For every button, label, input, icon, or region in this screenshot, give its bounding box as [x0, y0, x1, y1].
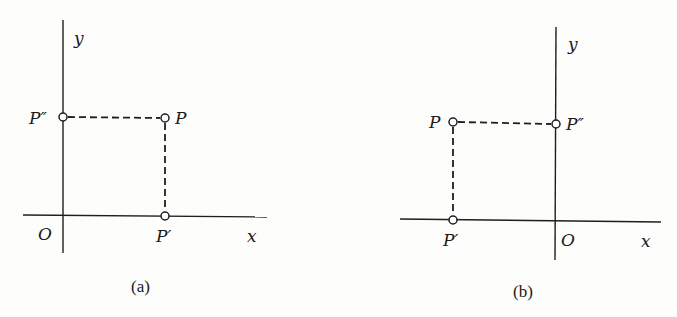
p-prime-label: P′ — [442, 230, 458, 250]
p-double-prime-label: P″ — [565, 114, 584, 134]
y-axis-label: y — [567, 34, 578, 54]
caption-b: (b) — [513, 282, 533, 301]
dashed-projection-horizontal — [458, 122, 551, 124]
y-axis — [555, 27, 556, 260]
point-p-double-prime — [59, 113, 67, 121]
x-axis-label: x — [247, 226, 257, 246]
p-double-prime-label: P″ — [28, 108, 47, 128]
point-p — [449, 118, 457, 126]
origin-label: O — [561, 230, 575, 250]
x-axis — [23, 215, 267, 217]
y-axis-label: y — [73, 28, 84, 48]
diagram-a: y P″ P O P′ x (a) — [23, 20, 267, 296]
p-label: P — [174, 108, 187, 128]
figure-canvas: y P″ P O P′ x (a) y P P″ O P′ x (b) — [0, 0, 677, 317]
point-p-double-prime — [552, 120, 560, 128]
p-label: P — [428, 112, 441, 132]
point-p — [161, 114, 169, 122]
point-p-prime — [161, 212, 169, 220]
x-axis — [400, 219, 661, 222]
dashed-projection-horizontal — [68, 117, 160, 118]
diagram-b: y P P″ O P′ x (b) — [400, 27, 661, 301]
p-prime-label: P′ — [155, 226, 171, 246]
x-axis-label: x — [641, 231, 651, 251]
origin-label: O — [38, 224, 52, 244]
point-p-prime — [449, 216, 457, 224]
caption-a: (a) — [131, 277, 150, 296]
